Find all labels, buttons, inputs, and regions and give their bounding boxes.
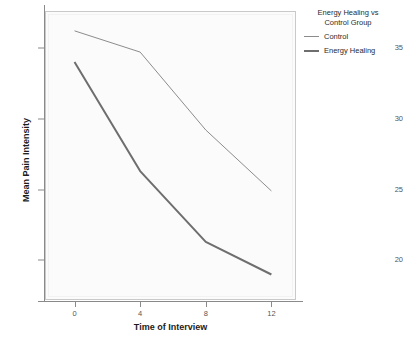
- line-chart: 20253035 04812 Time of Interview Mean Pa…: [0, 0, 403, 351]
- x-axis-title: Time of Interview: [45, 322, 296, 332]
- legend-title: Energy Healing vs Control Group: [302, 8, 394, 27]
- series-line-energy-healing: [75, 62, 272, 275]
- legend-line-swatch: [304, 36, 319, 37]
- legend: Energy Healing vs Control Group ControlE…: [302, 8, 401, 60]
- legend-title-line-2: Control Group: [324, 18, 371, 27]
- legend-entries: ControlEnergy Healing: [302, 32, 401, 55]
- legend-title-line-1: Energy Healing vs: [318, 8, 379, 17]
- legend-label: Energy Healing: [324, 46, 375, 55]
- legend-line-swatch: [304, 50, 319, 52]
- legend-item: Energy Healing: [304, 46, 401, 55]
- legend-item: Control: [304, 32, 401, 41]
- y-axis-title: Mean Pain Intensity: [21, 60, 31, 260]
- legend-label: Control: [324, 32, 348, 41]
